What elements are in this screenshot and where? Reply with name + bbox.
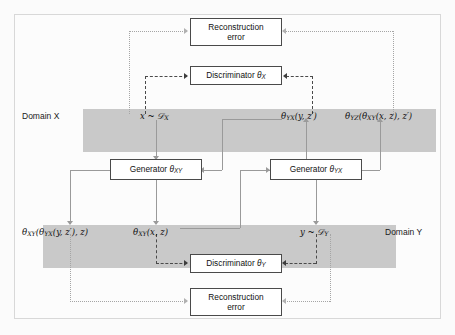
line-output-xy-up: [240, 170, 241, 228]
line-x-to-discx-vert: [145, 76, 146, 114]
line-yz-output-down: [380, 120, 381, 170]
expr-x-sample: x ~ 𝒟X: [140, 111, 169, 122]
line-genyx-down: [316, 180, 317, 224]
expr-theta-yz-composed: θYZ(θXY(x, z), z′): [345, 111, 412, 121]
line-x-to-discx-horiz: [145, 76, 187, 77]
line-yx-output-left: [222, 119, 282, 120]
arrowhead-y-to-discy: [282, 260, 286, 266]
expr-theta-xy-composed: θXY(θYX(y, z′), z): [22, 227, 88, 237]
expr-theta-yx-y-zprime: θYX(y, z′): [281, 111, 317, 121]
arrowhead-genyx-down: [313, 221, 319, 225]
generator-theta-xy-box[interactable]: Generator θXY: [110, 159, 202, 180]
discriminator-theta-x-box[interactable]: Discriminator θX: [190, 66, 282, 85]
gen-xy-sub: XY: [174, 167, 182, 174]
arrowhead-x-to-recon: [184, 28, 188, 34]
line-output-xy-right: [180, 228, 240, 229]
line-y-to-recon-vert: [330, 234, 331, 302]
disc-y-label: Discriminator: [206, 258, 254, 268]
line-into-genxy-right: [202, 170, 222, 171]
recon-bot-line1: Reconstruction: [208, 292, 263, 302]
arrowhead-yx-to-discx: [283, 73, 287, 79]
line-y-to-recon-horiz: [285, 301, 330, 302]
line-yz-to-recon-horiz: [285, 31, 393, 32]
generator-theta-yx-box[interactable]: Generator θYX: [270, 159, 362, 180]
figure-canvas: Domain X Domain Y: [0, 0, 455, 335]
line-yx-output-down: [222, 119, 223, 170]
discriminator-theta-y-box[interactable]: Discriminator θY: [190, 254, 282, 273]
gen-xy-label: Generator: [130, 164, 167, 174]
gen-yx-label: Generator: [290, 164, 327, 174]
recon-top-line1: Reconstruction: [208, 22, 263, 32]
line-xyfull-up: [70, 170, 71, 224]
arrowhead-xyxz-to-discy: [184, 260, 188, 266]
line-genyx-up-to-output: [306, 120, 307, 159]
recon-top-line2: error: [227, 32, 245, 42]
arrowhead-xyfull-down: [67, 221, 73, 225]
disc-y-sub: Y: [262, 261, 266, 268]
line-xyxz-to-discy-horiz: [156, 263, 187, 264]
line-yz-to-recon-vert: [393, 31, 394, 114]
line-yz-into-genyx: [362, 170, 380, 171]
domain-x-label: Domain X: [22, 111, 59, 121]
reconstruction-error-top-box[interactable]: Reconstruction error: [190, 18, 282, 46]
line-genxy-to-output: [156, 180, 157, 224]
line-yx-to-discx-vert: [312, 76, 313, 114]
arrowhead-y-to-recon: [282, 298, 286, 304]
arrowhead-genxy-to-output: [153, 221, 159, 225]
domain-y-label: Domain Y: [385, 227, 422, 237]
domain-y-text: Domain Y: [385, 227, 422, 237]
disc-x-sub: X: [262, 73, 266, 80]
line-xyfull-to-recon-horiz: [70, 301, 187, 302]
line-yx-to-discx-horiz: [286, 76, 313, 77]
reconstruction-error-bottom-box[interactable]: Reconstruction error: [190, 288, 282, 316]
expr-y-sample: y ~ 𝒟Y: [300, 227, 329, 238]
gen-yx-sub: YX: [334, 167, 342, 174]
disc-x-label: Discriminator: [206, 70, 254, 80]
line-x-to-genxy: [156, 120, 157, 159]
diagram-frame: [14, 14, 441, 319]
line-xyxz-to-discy-vert: [156, 234, 157, 264]
line-xyfull-into-genxy: [70, 170, 110, 171]
arrowhead-yz-to-recon: [282, 28, 286, 34]
line-x-to-recon-horiz: [129, 31, 187, 32]
arrowhead-xyfull-to-recon: [184, 298, 188, 304]
expr-theta-xy-x-z: θXY(x, z): [133, 227, 168, 237]
line-y-to-discy-vert: [316, 234, 317, 264]
arrowhead-x-to-discx: [184, 73, 188, 79]
line-y-to-discy-horiz: [285, 263, 316, 264]
line-xyfull-to-recon-vert: [70, 234, 71, 302]
line-x-to-recon-vert: [129, 31, 130, 114]
recon-bot-line2: error: [227, 302, 245, 312]
domain-x-text: Domain X: [22, 111, 59, 121]
